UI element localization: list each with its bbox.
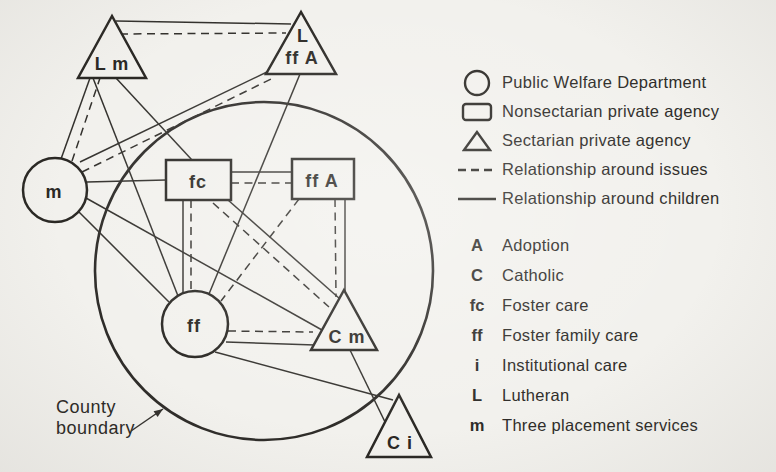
county-boundary-label-line1: County — [56, 397, 116, 417]
legend-label: Public Welfare Department — [502, 73, 706, 92]
county-boundary-arrowhead — [154, 409, 163, 417]
key-letter: m — [452, 416, 502, 435]
edge-ff-Cm-dashed — [228, 331, 313, 332]
county-boundary-label-line2: boundary — [56, 418, 135, 438]
legend-label: Sectarian private agency — [502, 131, 691, 150]
legend-item-issues: Relationship around issues — [452, 155, 772, 184]
edge-fc-Cm-solid — [228, 200, 340, 299]
circle-icon — [452, 68, 502, 98]
edge-Lm-LffA-dashed — [120, 33, 286, 34]
key-row-lutheran: L Lutheran — [452, 380, 772, 410]
node-public-ff-label: ff — [187, 316, 201, 336]
legend-item-public-welfare: Public Welfare Department — [452, 68, 772, 97]
legend-item-nonsectarian: Nonsectarian private agency — [452, 97, 772, 126]
key-label: Foster family care — [502, 326, 639, 345]
key-letter: i — [452, 356, 502, 375]
edge-Lm-LffA-solid — [116, 21, 291, 24]
key-label: Adoption — [502, 236, 570, 255]
key-row-adoption: A Adoption — [452, 230, 772, 260]
edge-ff-Ci-solid — [215, 352, 393, 400]
legend-label: Nonsectarian private agency — [502, 102, 719, 121]
solid-line-icon — [452, 195, 502, 203]
node-sectarian-Ci-label: C i — [387, 433, 413, 453]
key-row-foster-family-care: ff Foster family care — [452, 320, 772, 350]
dashed-line-icon — [452, 166, 502, 174]
key-letter: L — [452, 386, 502, 405]
legend-item-children: Relationship around children — [452, 184, 772, 213]
triangle-icon — [452, 129, 502, 153]
edge-fc-Cm-dashed — [213, 203, 329, 307]
key-row-three-placement-services: m Three placement services — [452, 410, 772, 440]
key-row-catholic: C Catholic — [452, 260, 772, 290]
edge-ff-Cm-solid — [226, 342, 315, 345]
legend-label: Relationship around issues — [502, 160, 708, 179]
legend-item-sectarian: Sectarian private agency — [452, 126, 772, 155]
edge-ffA-ff-dashed — [221, 199, 299, 301]
edge-m-ff-solid — [79, 212, 169, 302]
key-letter: fc — [452, 296, 502, 315]
key-label: Lutheran — [502, 386, 570, 405]
node-public-m-label: m — [45, 182, 62, 202]
legend-abbreviation-keys: A Adoption C Catholic fc Foster care ff … — [452, 230, 772, 440]
key-label: Foster care — [502, 296, 589, 315]
node-nonsect-ffA-label: ff A — [305, 171, 338, 191]
node-sectarian-LffA-label: L — [297, 26, 309, 46]
key-letter: C — [452, 266, 502, 285]
key-label: Three placement services — [502, 416, 698, 435]
edge-ffA-Cm-dashed — [335, 199, 336, 297]
key-label: Institutional care — [502, 356, 628, 375]
edge-Lm-fc-solid — [116, 78, 192, 160]
key-row-institutional-care: i Institutional care — [452, 350, 772, 380]
node-sectarian-Cm-label: C m — [328, 327, 365, 347]
key-letter: A — [452, 236, 502, 255]
node-nonsect-fc-label: fc — [189, 172, 207, 192]
node-sectarian-Lm-label: L m — [95, 54, 130, 74]
agency-network-diagram: L mLff Amfcff AffC mC iCountyboundary — [0, 0, 460, 472]
county-boundary-circle — [95, 102, 433, 440]
key-row-foster-care: fc Foster care — [452, 290, 772, 320]
rect-icon — [452, 101, 502, 123]
edge-m-fc-solid — [87, 180, 166, 182]
legend-label: Relationship around children — [502, 189, 720, 208]
legend: Public Welfare Department Nonsectarian p… — [452, 68, 772, 440]
node-sectarian-LffA-label: ff A — [285, 48, 318, 68]
key-letter: ff — [452, 326, 502, 345]
scanned-figure-page: { "diagram": { "boundary": { "cx": 264, … — [0, 0, 776, 472]
key-label: Catholic — [502, 266, 564, 285]
